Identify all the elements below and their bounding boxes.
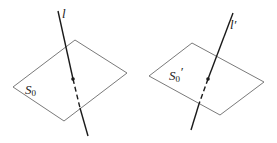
line-l-upper [58, 11, 73, 79]
label-line-l-prime: l′ [230, 17, 237, 32]
figure-right: l′ S0′ [149, 13, 264, 130]
line-l-prime-hidden [199, 79, 208, 104]
label-line-l: l [62, 6, 66, 21]
intersection-point-left [71, 77, 75, 81]
label-plane-s0-prime: S0′ [169, 64, 183, 84]
line-l-lower [80, 108, 88, 136]
plane-s0 [13, 40, 127, 121]
diagram-canvas: l S0 l′ S0′ [0, 0, 277, 143]
intersection-point-right [206, 77, 210, 81]
label-plane-s0: S0 [25, 82, 37, 98]
line-l-prime-lower [191, 104, 199, 130]
line-l-hidden [73, 79, 80, 108]
diagram-svg: l S0 l′ S0′ [0, 0, 277, 143]
figure-left: l S0 [13, 6, 127, 136]
